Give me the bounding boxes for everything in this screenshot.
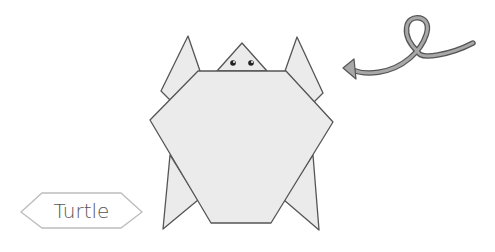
curved-arrow-icon xyxy=(343,18,473,79)
left-eye-icon xyxy=(230,60,236,66)
turtle xyxy=(150,36,333,230)
right-eye-icon xyxy=(248,60,254,66)
head xyxy=(217,43,267,71)
turtle-label: Turtle xyxy=(21,193,142,228)
